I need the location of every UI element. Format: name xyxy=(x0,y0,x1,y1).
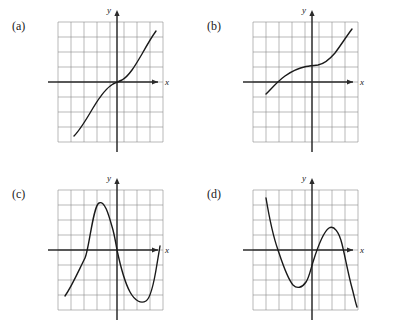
y-axis-arrow-d xyxy=(309,178,314,184)
curve-c xyxy=(65,203,160,302)
y-axis-arrow-b xyxy=(309,10,314,16)
figure-container: (a) xyxy=(0,0,395,332)
plot-a: x y xyxy=(0,0,185,165)
panel-label-a: (a) xyxy=(12,20,25,32)
curve-a xyxy=(74,31,156,136)
axes-d xyxy=(243,180,353,320)
panel-label-c: (c) xyxy=(12,188,25,200)
y-axis-label-b: y xyxy=(301,5,306,15)
panel-label-b: (b) xyxy=(207,20,221,32)
plot-c: x y xyxy=(0,168,185,332)
x-axis-label-a: x xyxy=(164,77,169,87)
plot-d: x y xyxy=(195,168,395,332)
panel-a: (a) xyxy=(0,0,185,165)
y-axis-label-d: y xyxy=(301,173,306,183)
x-axis-arrow-b xyxy=(347,79,353,84)
plot-b: x y xyxy=(195,0,395,165)
x-axis-arrow-c xyxy=(152,247,158,252)
axes-b xyxy=(243,12,353,152)
y-axis-arrow-c xyxy=(114,178,119,184)
panel-b: (b) xyxy=(195,0,395,165)
panel-label-d: (d) xyxy=(207,188,221,200)
y-axis-arrow-a xyxy=(114,10,119,16)
x-axis-arrow-d xyxy=(347,247,353,252)
panel-c: (c) xyxy=(0,168,185,332)
y-axis-label-c: y xyxy=(106,173,111,183)
axes-c xyxy=(48,180,158,320)
x-axis-label-d: x xyxy=(359,245,364,255)
x-axis-label-b: x xyxy=(359,77,364,87)
axes-a xyxy=(48,12,158,152)
x-axis-arrow-a xyxy=(152,79,158,84)
panel-d: (d) xyxy=(195,168,395,332)
x-axis-label-c: x xyxy=(164,245,169,255)
y-axis-label-a: y xyxy=(106,5,111,15)
